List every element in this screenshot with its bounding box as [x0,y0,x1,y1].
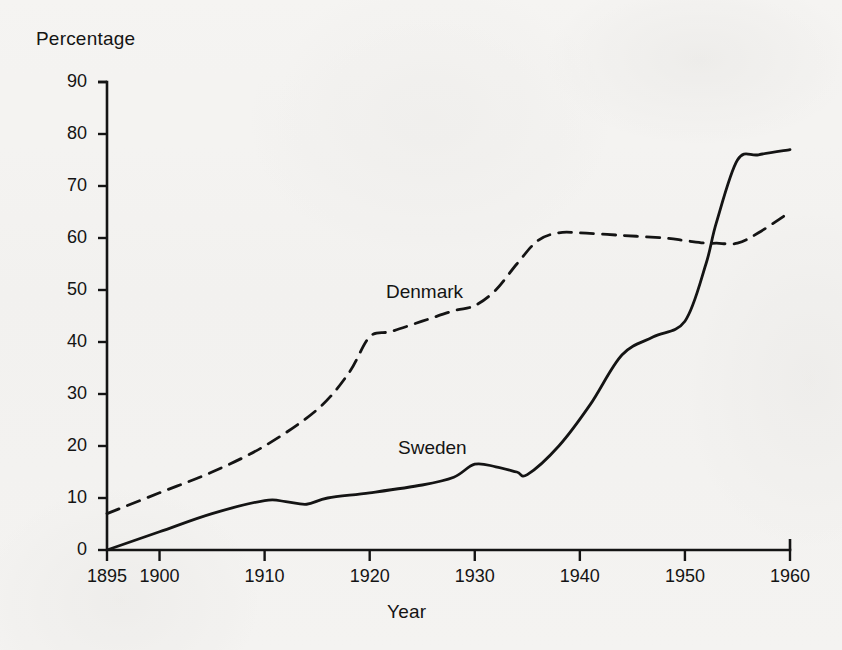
series-path-denmark [107,212,790,514]
line-chart-figure: Percentage Year 0102030405060708090 1895… [0,0,842,650]
x-axis-title: Year [387,601,426,623]
y-tick-label: 60 [29,227,87,248]
x-tick-label: 1940 [550,566,610,587]
y-tick-label: 50 [29,279,87,300]
x-tick-label: 1950 [655,566,715,587]
x-tick-label: 1930 [445,566,505,587]
series-path-sweden [107,150,790,550]
chart-plot-area [0,0,842,650]
x-tick-label: 1895 [77,566,137,587]
x-tick-label: 1960 [760,566,820,587]
data-series-layer [107,150,790,550]
y-axis-title: Percentage [36,28,135,50]
y-tick-label: 80 [29,123,87,144]
series-label-denmark: Denmark [386,281,463,303]
y-tick-label: 70 [29,175,87,196]
x-tick-label: 1900 [130,566,190,587]
x-tick-label: 1920 [340,566,400,587]
y-tick-label: 20 [29,435,87,456]
x-tick-label: 1910 [235,566,295,587]
y-tick-label: 40 [29,331,87,352]
series-label-sweden: Sweden [398,437,467,459]
y-tick-label: 30 [29,383,87,404]
y-tick-label: 90 [29,71,87,92]
y-tick-label: 0 [29,539,87,560]
y-tick-label: 10 [29,487,87,508]
